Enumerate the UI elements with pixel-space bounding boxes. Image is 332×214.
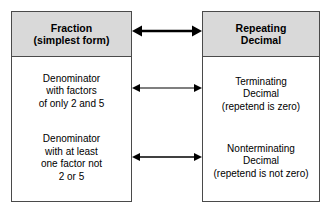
fraction-row-1-line-2: with factors (46, 85, 97, 98)
decimal-box: Repeating Decimal Terminating Decimal (r… (202, 11, 320, 202)
fraction-box-body: Denominator with factors of only 2 and 5… (12, 57, 131, 201)
fraction-header-line-1: Fraction (51, 22, 92, 35)
decimal-row-2: Nonterminating Decimal (repetend is not … (205, 143, 317, 181)
fraction-box: Fraction (simplest form) Denominator wit… (11, 11, 132, 202)
decimal-row-1: Terminating Decimal (repetend is zero) (205, 76, 317, 114)
fraction-row-1: Denominator with factors of only 2 and 5 (14, 73, 129, 111)
fraction-row-1-line-1: Denominator (43, 73, 100, 86)
decimal-row-2-line-2: Decimal (243, 155, 279, 168)
decimal-header-line-2: Decimal (241, 34, 281, 47)
decimal-row-1-line-3: (repetend is zero) (222, 101, 300, 114)
decimal-box-body: Terminating Decimal (repetend is zero) N… (203, 57, 319, 201)
fraction-row-1-line-3: of only 2 and 5 (39, 98, 105, 111)
fraction-header-line-2: (simplest form) (34, 34, 110, 47)
decimal-row-2-line-1: Nonterminating (227, 143, 295, 156)
fraction-row-2-line-4: 2 or 5 (59, 171, 85, 184)
decimal-header-line-1: Repeating (236, 22, 287, 35)
fraction-box-header: Fraction (simplest form) (12, 12, 131, 57)
row2-connector-arrow (132, 151, 202, 163)
decimal-row-1-line-2: Decimal (243, 88, 279, 101)
header-connector-arrow (132, 24, 202, 38)
row1-connector-arrow (132, 82, 202, 94)
fraction-row-2-line-2: with at least (45, 146, 98, 159)
fraction-row-2: Denominator with at least one factor not… (14, 133, 129, 183)
decimal-row-2-line-3: (repetend is not zero) (213, 168, 308, 181)
decimal-box-header: Repeating Decimal (203, 12, 319, 57)
fraction-row-2-line-3: one factor not (41, 158, 102, 171)
decimal-row-1-line-1: Terminating (235, 76, 287, 89)
fraction-row-2-line-1: Denominator (43, 133, 100, 146)
comparison-diagram: Fraction (simplest form) Denominator wit… (0, 0, 332, 214)
